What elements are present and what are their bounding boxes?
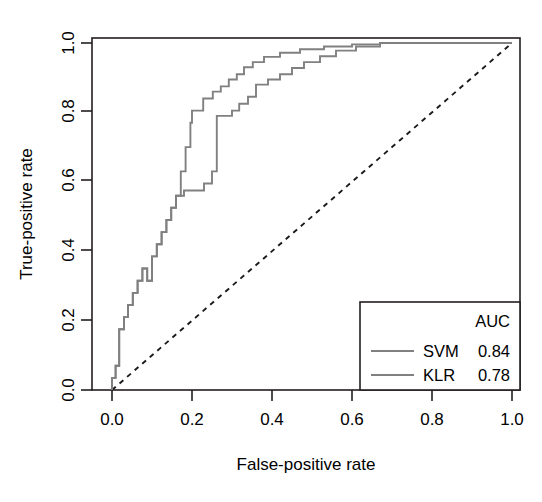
legend-value-svm: 0.84 bbox=[478, 342, 510, 360]
y-tick-label: 0.4 bbox=[59, 238, 78, 262]
y-tick-label: 1.0 bbox=[59, 31, 78, 55]
legend: AUC SVM 0.84 KLR 0.78 bbox=[360, 302, 520, 390]
y-tick-label: 0.6 bbox=[59, 168, 78, 192]
x-axis-title: False-positive rate bbox=[237, 455, 376, 474]
legend-value-klr: 0.78 bbox=[478, 366, 510, 384]
y-tick-labels: 0.0 0.2 0.4 0.6 0.8 1.0 bbox=[59, 31, 78, 402]
x-tick-label: 0.2 bbox=[180, 410, 204, 429]
y-axis-title: True-positive rate bbox=[17, 148, 36, 280]
x-tick-label: 1.0 bbox=[500, 410, 524, 429]
legend-label-svm: SVM bbox=[423, 342, 459, 360]
y-tick-label: 0.0 bbox=[59, 378, 78, 402]
x-tick-labels: 0.0 0.2 0.4 0.6 0.8 1.0 bbox=[100, 410, 524, 429]
y-tick-label: 0.8 bbox=[59, 99, 78, 123]
roc-chart: 0.0 0.2 0.4 0.6 0.8 1.0 0.0 0.2 0.4 0.6 … bbox=[0, 0, 542, 502]
roc-plot-svg: 0.0 0.2 0.4 0.6 0.8 1.0 0.0 0.2 0.4 0.6 … bbox=[0, 0, 542, 502]
x-tick-label: 0.8 bbox=[420, 410, 444, 429]
y-axis-ticks bbox=[81, 43, 92, 390]
legend-label-klr: KLR bbox=[423, 366, 455, 384]
y-tick-label: 0.2 bbox=[59, 308, 78, 332]
x-axis-ticks bbox=[112, 390, 512, 401]
legend-title: AUC bbox=[475, 312, 510, 330]
x-tick-label: 0.6 bbox=[340, 410, 364, 429]
x-tick-label: 0.0 bbox=[100, 410, 124, 429]
x-tick-label: 0.4 bbox=[260, 410, 284, 429]
